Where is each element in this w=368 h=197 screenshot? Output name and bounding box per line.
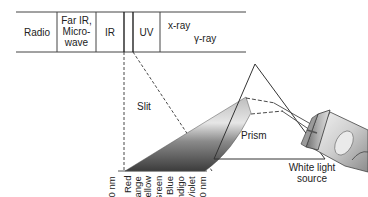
color-label-violet: Violet <box>187 176 197 197</box>
color-label-indigo: Indigo <box>176 176 186 197</box>
band-label-radio: Radio <box>18 27 56 38</box>
wavelength-label-400nm: 400 nm <box>198 176 208 197</box>
light-source-label-line2: source <box>282 173 342 184</box>
light-source-label: White light source <box>282 162 342 184</box>
band-label-uv: UV <box>133 27 160 38</box>
band-label-far-ir-microwave: Far IR, Micro- wave <box>57 15 96 48</box>
slit-label: Slit <box>137 101 151 112</box>
band-label-line: Micro- <box>57 26 96 37</box>
band-label-line: wave <box>57 37 96 48</box>
color-label-green: Green <box>154 176 164 197</box>
spectrum-diagram: Radio Far IR, Micro- wave IR UV x-ray γ-… <box>0 0 368 197</box>
band-label-gamma-ray: γ-ray <box>194 33 216 44</box>
wavelength-label-750nm: 750 nm <box>107 176 117 197</box>
band-label-line: Far IR, <box>57 15 96 26</box>
band-label-ir: IR <box>96 27 124 38</box>
band-label-x-ray: x-ray <box>168 20 190 31</box>
light-source-label-line1: White light <box>282 162 342 173</box>
color-label-yellow: Yellow <box>143 176 153 197</box>
color-label-blue: Blue <box>165 176 175 195</box>
prism-label: Prism <box>241 130 267 141</box>
